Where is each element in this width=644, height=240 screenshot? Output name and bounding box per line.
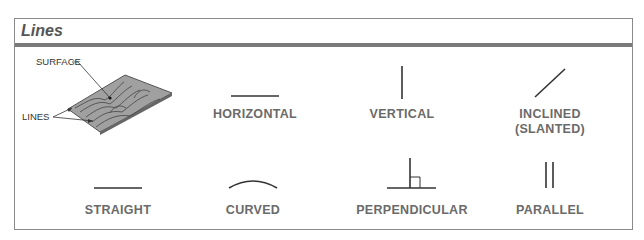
label-parallel: PARALLEL xyxy=(500,203,600,218)
